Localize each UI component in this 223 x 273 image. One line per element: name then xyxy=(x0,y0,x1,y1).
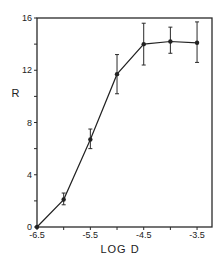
x-tick-label: -5.5 xyxy=(83,230,99,240)
error-bars xyxy=(62,22,199,205)
data-point-marker xyxy=(35,225,39,229)
y-tick-label: 16 xyxy=(22,13,32,23)
y-axis-label: R xyxy=(12,87,21,99)
x-axis-ticks: -6.5-5.5-4.5-3.5 xyxy=(29,227,205,240)
line-chart: 0481216 -6.5-5.5-4.5-3.5 R LOG D xyxy=(0,0,223,273)
x-tick-label: -6.5 xyxy=(29,230,45,240)
x-axis-label: LOG D xyxy=(100,243,139,255)
data-point-marker xyxy=(168,39,172,43)
data-point-marker xyxy=(115,72,119,76)
y-axis-ticks: 0481216 xyxy=(22,13,37,232)
data-point-marker xyxy=(61,197,65,201)
data-point-marker xyxy=(195,41,199,45)
data-point-marker xyxy=(88,137,92,141)
data-point-marker xyxy=(142,42,146,46)
y-tick-label: 12 xyxy=(22,65,32,75)
x-tick-label: -3.5 xyxy=(189,230,205,240)
x-tick-label: -4.5 xyxy=(136,230,152,240)
y-tick-label: 4 xyxy=(27,170,32,180)
y-tick-label: 8 xyxy=(27,118,32,128)
